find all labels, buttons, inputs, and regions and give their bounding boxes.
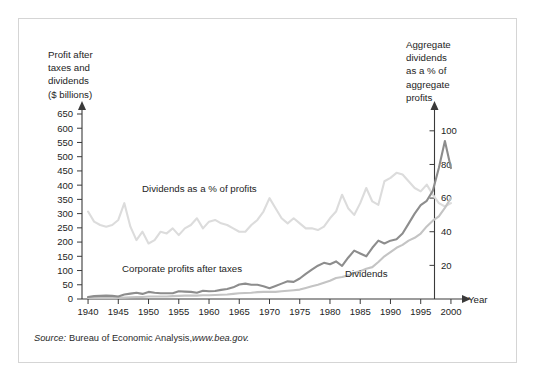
axis-title-line: aggregate [406, 79, 450, 90]
x-tick-label: 2000 [440, 306, 461, 317]
left-tick-label: 200 [57, 236, 73, 247]
x-tick-label: 1980 [319, 306, 340, 317]
x-tick-label: 1950 [138, 306, 159, 317]
x-tick-label: 1965 [229, 306, 250, 317]
x-tick-label: 1945 [108, 306, 129, 317]
axis-title-line: dividends [406, 52, 447, 63]
source-prefix: Source: [34, 333, 66, 343]
annotation-dividends: Dividends [345, 268, 388, 279]
axis-title-line: profits [406, 92, 433, 103]
left-tick-label: 650 [57, 108, 73, 119]
left-tick-label: 450 [57, 165, 73, 176]
x-tick-label: 1970 [259, 306, 280, 317]
left-tick-label: 250 [57, 222, 73, 233]
x-tick-label: 1995 [410, 306, 431, 317]
x-tick-label: 1985 [350, 306, 371, 317]
series-dividends [88, 198, 451, 298]
annotation-corporate-profits: Corporate profits after taxes [122, 263, 242, 274]
series-lines [88, 141, 451, 298]
left-tick-label: 400 [57, 180, 73, 191]
left-tick-label: 100 [57, 265, 73, 276]
axis-title-line: ($ billions) [48, 89, 92, 100]
x-tick-label: 1955 [168, 306, 189, 317]
axis-title-line: as a % of [406, 65, 447, 76]
left-tick-label: 600 [57, 123, 73, 134]
x-axis-label: Year [468, 294, 488, 305]
right-tick-label: 20 [441, 260, 452, 271]
axis-title-line: Aggregate [406, 39, 451, 50]
axis-title-line: Profit after [48, 49, 93, 60]
chart-canvas: Profit aftertaxes anddividends($ billion… [0, 0, 535, 381]
source-note: Source:Bureau of Economic Analysis,www.b… [34, 333, 249, 343]
left-axis-ticks: 050100150200250300350400450500550600650 [57, 108, 82, 304]
axis-title-line: dividends [48, 75, 89, 86]
right-tick-label: 40 [441, 226, 452, 237]
x-tick-label: 1975 [289, 306, 310, 317]
x-tick-label: 1960 [198, 306, 219, 317]
annotation-dividends-percent: Dividends as a % of profits [142, 183, 257, 194]
left-tick-label: 50 [62, 279, 73, 290]
right-axis-title: Aggregatedividendsas a % ofaggregateprof… [406, 39, 451, 103]
left-tick-label: 300 [57, 208, 73, 219]
right-tick-label: 100 [441, 125, 457, 136]
left-tick-label: 150 [57, 251, 73, 262]
x-axis-ticks: 1940194519501955196019651970197519801985… [77, 299, 461, 317]
x-tick-label: 1990 [380, 306, 401, 317]
source-text: Bureau of Economic Analysis, [69, 333, 192, 343]
left-tick-label: 0 [68, 293, 73, 304]
left-tick-label: 550 [57, 137, 73, 148]
left-tick-label: 500 [57, 151, 73, 162]
source-url: www.bea.gov. [192, 333, 249, 343]
x-tick-label: 1940 [77, 306, 98, 317]
axis-title-line: taxes and [48, 62, 90, 73]
left-tick-label: 350 [57, 194, 73, 205]
left-axis-title: Profit aftertaxes anddividends($ billion… [48, 49, 93, 100]
